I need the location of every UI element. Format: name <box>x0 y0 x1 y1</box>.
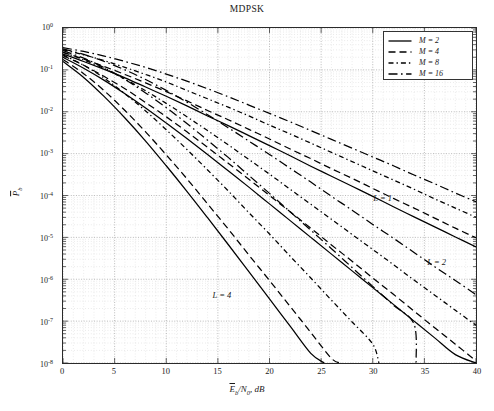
legend-item: M = 4 <box>388 46 468 57</box>
y-tick-label: 10-8 <box>40 359 53 370</box>
y-axis-tick-labels: 10010-110-210-310-410-510-610-710-8 <box>0 27 59 364</box>
x-tick-label: 25 <box>317 366 326 376</box>
y-tick-label: 10-3 <box>40 148 53 159</box>
legend-line-swatch <box>388 48 412 56</box>
chart-legend: M = 2 M = 4 M = 8 M = 16 <box>383 31 473 80</box>
legend-label: M = 8 <box>419 58 439 67</box>
y-tick-label: 10-1 <box>40 64 53 75</box>
legend-item: M = 8 <box>388 57 468 68</box>
curve-annotation: L = 1 <box>373 193 392 203</box>
legend-label: M = 4 <box>419 47 439 56</box>
x-axis-label: Eb/N0, dB <box>0 384 494 396</box>
x-tick-label: 15 <box>213 366 222 376</box>
chart-title: MDPSK <box>0 4 494 14</box>
curve-annotation: L = 4 <box>212 290 231 300</box>
y-axis-label: Pb <box>11 172 23 212</box>
y-tick-label: 100 <box>42 22 53 33</box>
legend-item: M = 2 <box>388 35 468 46</box>
legend-item: M = 16 <box>388 68 468 79</box>
y-tick-label: 10-6 <box>40 274 53 285</box>
x-tick-label: 40 <box>473 366 482 376</box>
y-tick-label: 10-4 <box>40 190 53 201</box>
y-tick-label: 10-5 <box>40 232 53 243</box>
x-axis-tick-labels: 0510152025303540 <box>62 366 477 382</box>
y-tick-label: 10-2 <box>40 106 53 117</box>
legend-line-swatch <box>388 37 412 45</box>
x-tick-label: 5 <box>112 366 116 376</box>
x-tick-label: 0 <box>60 366 64 376</box>
x-tick-label: 20 <box>265 366 274 376</box>
x-tick-label: 10 <box>162 366 171 376</box>
legend-line-swatch <box>388 59 412 67</box>
x-tick-label: 35 <box>421 366 430 376</box>
legend-label: M = 2 <box>419 36 439 45</box>
curve-annotation: L = 2 <box>427 257 446 267</box>
x-tick-label: 30 <box>369 366 378 376</box>
legend-label: M = 16 <box>419 69 443 78</box>
y-tick-label: 10-7 <box>40 317 53 328</box>
chart-figure: MDPSK 10010-110-210-310-410-510-610-710-… <box>0 0 494 411</box>
legend-line-swatch <box>388 70 412 78</box>
